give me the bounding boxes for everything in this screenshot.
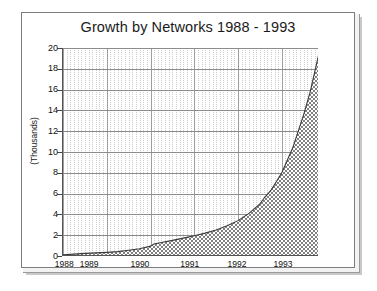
y-axis-tick-label: 8: [36, 168, 58, 177]
y-axis-tick-label: 14: [36, 106, 58, 115]
y-axis-tick-label: 16: [36, 85, 58, 94]
x-axis-tick-labels: 198819891990199119921993: [62, 259, 318, 271]
area-chart-canvas: [63, 48, 318, 256]
y-axis-tick-label: 18: [36, 64, 58, 73]
y-axis-tick-label: 10: [36, 148, 58, 157]
y-axis-tick-label: 4: [36, 210, 58, 219]
y-axis-tick-label: 20: [36, 44, 58, 53]
y-axis-tick-label: 6: [36, 189, 58, 198]
plot-area: [62, 48, 318, 256]
x-axis-tick-label: 1992: [228, 259, 247, 269]
x-axis-tick-label: 1989: [80, 259, 99, 269]
y-axis-tick-mark: [57, 256, 62, 257]
y-axis-tick-labels: 02468101214161820: [36, 48, 58, 256]
x-axis-tick-label: 1993: [274, 259, 293, 269]
data-area-fill: [63, 53, 318, 256]
chart-title: Growth by Networks 1988 - 1993: [21, 19, 355, 35]
figure-root: Growth by Networks 1988 - 1993 (Thousand…: [0, 0, 377, 291]
y-axis-tick-label: 12: [36, 127, 58, 136]
x-axis-tick-label: 1991: [180, 259, 199, 269]
x-axis-tick-label: 1990: [130, 259, 149, 269]
y-axis-tick-label: 2: [36, 231, 58, 240]
x-axis-tick-label: 1988: [55, 259, 74, 269]
